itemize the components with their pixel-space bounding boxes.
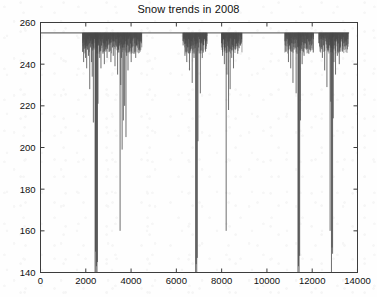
svg-text:220: 220 xyxy=(20,100,36,111)
svg-text:0: 0 xyxy=(38,275,43,286)
svg-text:8000: 8000 xyxy=(211,275,232,286)
x-axis-tick-labels: 02000400060008000100001200014000 xyxy=(38,275,371,286)
plot-area: 140160180200220240260 020004000600080001… xyxy=(0,0,377,297)
svg-text:6000: 6000 xyxy=(166,275,187,286)
svg-text:140: 140 xyxy=(20,267,36,278)
svg-text:260: 260 xyxy=(20,17,36,28)
svg-text:14000: 14000 xyxy=(344,275,370,286)
svg-text:160: 160 xyxy=(20,225,36,236)
y-axis-tick-labels: 140160180200220240260 xyxy=(20,17,36,278)
axis-ticks xyxy=(41,23,358,273)
svg-text:2000: 2000 xyxy=(75,275,96,286)
figure-canvas: Snow trends in 2008 14016018020022024026… xyxy=(0,0,377,297)
data-series-snow xyxy=(41,33,350,273)
svg-text:10000: 10000 xyxy=(254,275,280,286)
svg-text:200: 200 xyxy=(20,142,36,153)
axes-frame xyxy=(41,23,358,273)
svg-text:12000: 12000 xyxy=(299,275,325,286)
svg-text:4000: 4000 xyxy=(121,275,142,286)
svg-text:240: 240 xyxy=(20,59,36,70)
svg-text:180: 180 xyxy=(20,184,36,195)
